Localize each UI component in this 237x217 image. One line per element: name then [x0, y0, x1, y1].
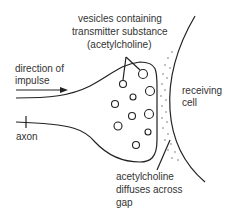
synapse-diagram: vesicles containing transmitter substanc… [0, 0, 237, 217]
vesicles-label-1: vesicles containing [78, 13, 162, 24]
diffuses-label-2: diffuses across [116, 184, 183, 195]
vesicle-pointer-1 [123, 57, 126, 80]
axon-label: axon [16, 131, 38, 142]
direction-label-1: direction of [15, 63, 64, 74]
receiving-label-1: receiving [182, 85, 222, 96]
direction-label-2: impulse [15, 75, 50, 86]
vesicles-label-3: (acetylcholine) [87, 39, 151, 50]
impulse-arrowhead [60, 87, 68, 93]
diffuses-pointer [157, 140, 170, 170]
vesicles-label-2: transmitter substance [72, 26, 168, 37]
diffuses-label-1: acetylcholine [116, 171, 174, 182]
diffuses-label-3: gap [116, 197, 133, 208]
receiving-label-2: cell [182, 97, 197, 108]
vesicle-pointer-2 [126, 57, 140, 70]
vesicles [112, 70, 155, 149]
